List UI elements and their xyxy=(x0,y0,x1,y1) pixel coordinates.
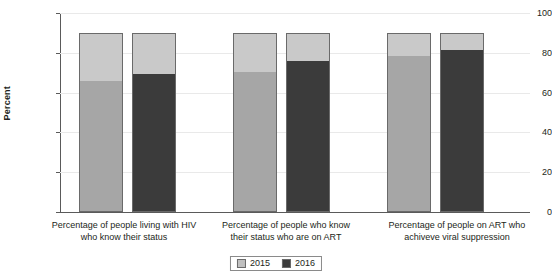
bar-2016-group-2[interactable] xyxy=(286,33,330,212)
bar-segment-value-2015 xyxy=(388,56,430,211)
gridline-100 xyxy=(60,13,530,14)
x-category-label-3: Percentage of people on ART who achiveve… xyxy=(367,220,547,243)
bar-segment-value-2016 xyxy=(441,50,483,211)
chart-figure: Percent 100 80 60 40 20 0 xyxy=(0,0,552,280)
x-category-label-3-line2: achiveve viral suppression xyxy=(367,232,547,244)
x-category-label-1-line1: Percentage of people living with HIV xyxy=(34,220,214,232)
legend-label-2015: 2015 xyxy=(250,259,270,268)
bar-segment-remainder xyxy=(388,34,430,56)
bar-segment-remainder xyxy=(80,34,122,81)
bar-2016-group-1[interactable] xyxy=(132,33,176,212)
bar-2015-group-2[interactable] xyxy=(233,33,277,212)
bar-segment-remainder xyxy=(234,34,276,72)
legend-item-2015[interactable]: 2015 xyxy=(237,259,270,268)
bar-segment-value-2015 xyxy=(234,72,276,211)
x-category-label-3-line1: Percentage of people on ART who xyxy=(367,220,547,232)
bar-segment-remainder xyxy=(441,34,483,50)
chart-legend: 2015 2016 xyxy=(230,256,322,271)
x-category-label-2: Percentage of people who know their stat… xyxy=(202,220,370,243)
bar-segment-value-2016 xyxy=(287,61,329,211)
axis-baseline xyxy=(60,212,530,213)
bar-segment-value-2016 xyxy=(133,74,175,211)
y-axis-title: Percent xyxy=(2,86,16,120)
x-category-label-1: Percentage of people living with HIV who… xyxy=(34,220,214,243)
legend-label-2016: 2016 xyxy=(295,259,315,268)
legend-swatch-icon-2016 xyxy=(282,259,291,268)
x-category-label-2-line1: Percentage of people who know xyxy=(202,220,370,232)
bar-2016-group-3[interactable] xyxy=(440,33,484,212)
legend-swatch-icon-2015 xyxy=(237,259,246,268)
x-category-label-2-line2: their status who are on ART xyxy=(202,232,370,244)
bar-segment-remainder xyxy=(133,34,175,74)
bar-2015-group-1[interactable] xyxy=(79,33,123,212)
plot-area xyxy=(60,13,530,212)
bar-segment-value-2015 xyxy=(80,81,122,211)
bar-2015-group-3[interactable] xyxy=(387,33,431,212)
legend-item-2016[interactable]: 2016 xyxy=(282,259,315,268)
bar-segment-remainder xyxy=(287,34,329,61)
x-category-label-1-line2: who know their status xyxy=(34,232,214,244)
